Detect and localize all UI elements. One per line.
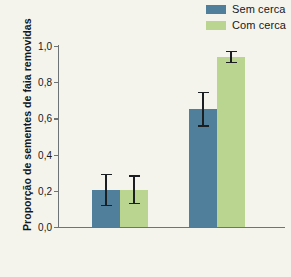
plot-area: 1,00,80,60,40,20,0	[58, 46, 285, 227]
legend-label-com-cerca: Com cerca	[232, 19, 286, 32]
legend-item-com-cerca: Com cerca	[206, 19, 291, 32]
chart-legend: Sem cerca Com cerca	[206, 3, 291, 35]
error-bar-line	[133, 175, 134, 204]
y-tick-label: 0,6	[38, 113, 52, 124]
error-bar-cap-top	[101, 174, 112, 175]
error-bar-cap-bottom	[101, 205, 112, 206]
y-axis-line	[58, 45, 59, 228]
error-bar-line	[202, 92, 203, 126]
y-tick-label: 1,0	[38, 41, 52, 52]
y-tick-label: 0,4	[38, 149, 52, 160]
bar	[189, 109, 217, 227]
legend-swatch-sem-cerca	[206, 5, 226, 14]
y-tick-label: 0,2	[38, 185, 52, 196]
legend-label-sem-cerca: Sem cerca	[232, 3, 285, 16]
error-bar-cap-top	[198, 92, 209, 93]
y-tick-mark	[54, 191, 58, 192]
y-tick-mark	[54, 46, 58, 47]
y-tick-label: 0,8	[38, 77, 52, 88]
y-tick-mark	[54, 155, 58, 156]
y-tick-label: 0,0	[38, 222, 52, 233]
error-bar-cap-top	[129, 175, 140, 176]
error-bar	[217, 51, 245, 64]
bar	[217, 57, 245, 227]
error-bar-cap-top	[226, 51, 237, 52]
error-bar-cap-bottom	[226, 62, 237, 63]
legend-swatch-com-cerca	[206, 21, 226, 30]
figure: Sem cerca Com cerca Proporção de semente…	[0, 0, 291, 277]
y-axis-title: Proporção de sementes de faia removidas	[21, 41, 33, 231]
error-bar	[92, 174, 120, 207]
y-tick-mark	[54, 82, 58, 83]
y-tick-mark	[54, 227, 58, 228]
error-bar	[189, 92, 217, 126]
error-bar-line	[105, 174, 106, 207]
x-axis-line	[58, 227, 285, 228]
error-bar-cap-bottom	[129, 203, 140, 204]
error-bar-cap-bottom	[198, 125, 209, 126]
legend-item-sem-cerca: Sem cerca	[206, 3, 291, 16]
error-bar	[120, 175, 148, 204]
y-tick-mark	[54, 118, 58, 119]
